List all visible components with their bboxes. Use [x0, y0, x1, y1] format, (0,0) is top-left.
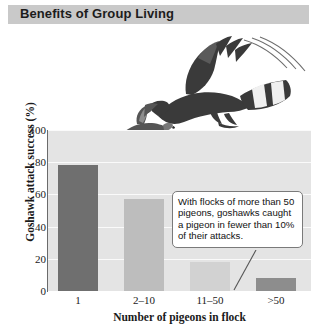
bar-category-2-10 — [124, 199, 164, 291]
gridline-80 — [48, 162, 311, 163]
title-banner: Benefits of Group Living — [8, 5, 309, 24]
y-tick-label-0: 0 — [2, 285, 46, 297]
bar-category-gt50 — [256, 278, 296, 291]
gridline-100 — [48, 130, 311, 131]
x-axis-ticks: 1 2–10 11–50 >50 — [48, 294, 311, 310]
y-axis-line — [47, 130, 48, 292]
x-tick-label-1: 1 — [48, 294, 108, 306]
annotation-callout: With flocks of more than 50 pigeons, gos… — [172, 191, 303, 248]
chart-figure: 100 80 60 40 20 0 Goshawk attack success… — [0, 28, 317, 330]
x-tick-label-2-10: 2–10 — [114, 294, 174, 306]
x-tick-label-gt50: >50 — [246, 294, 306, 306]
bar-category-1 — [58, 165, 98, 291]
y-axis-ticks: 100 80 60 40 20 0 — [0, 130, 46, 291]
x-tick-label-11-50: 11–50 — [180, 294, 240, 306]
bar-category-11-50 — [190, 262, 230, 291]
page-title: Benefits of Group Living — [20, 6, 174, 21]
y-axis-title: Goshawk attack success (%) — [24, 82, 36, 262]
x-axis-title: Number of pigeons in flock — [48, 311, 311, 323]
